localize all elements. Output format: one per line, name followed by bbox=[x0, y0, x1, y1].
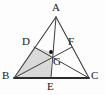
vertex-label-c: C bbox=[91, 70, 98, 81]
segment-median-ae bbox=[51, 17, 56, 78]
vertex-label-d: D bbox=[22, 36, 30, 47]
diagram-canvas: A B C D E F G bbox=[0, 0, 105, 95]
centroid-point-g bbox=[49, 50, 53, 54]
vertex-label-b: B bbox=[2, 70, 9, 81]
vertex-label-g: G bbox=[53, 56, 61, 67]
vertex-label-f: F bbox=[68, 36, 74, 47]
vertex-label-a: A bbox=[52, 2, 60, 13]
vertex-label-e: E bbox=[47, 81, 54, 92]
